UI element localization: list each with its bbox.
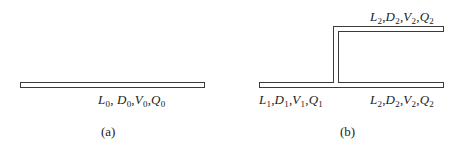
pipe-b-branch-horizontal [333, 26, 444, 32]
caption-a: (a) [101, 125, 115, 138]
var-diameter: D [117, 92, 127, 107]
subscript: 2 [429, 16, 434, 26]
pipe-b-branch-vertical [333, 26, 339, 83]
var-diameter: D [386, 92, 396, 107]
var-diameter: D [275, 92, 285, 107]
pipe-diagram: L0, D0,V0,Q0 (a) L2,D2,V2,Q2 L1,D1,V1,Q1… [0, 0, 462, 150]
pipe-b-left-label: L1,D1,V1,Q1 [259, 93, 323, 109]
caption-b: (b) [340, 125, 355, 138]
separator: , [110, 92, 113, 107]
var-flow: Q [420, 92, 430, 107]
var-flow: Q [309, 92, 319, 107]
subscript: 2 [429, 99, 434, 109]
pipe-a-label: L0, D0,V0,Q0 [98, 93, 165, 109]
subscript: 0 [161, 99, 166, 109]
var-velocity: V [403, 9, 411, 24]
pipe-b-right-label: L2,D2,V2,Q2 [370, 93, 434, 109]
elbow-joint [334, 31, 338, 33]
pipe-b-main [259, 82, 444, 88]
var-flow: Q [420, 9, 430, 24]
pipe-a [20, 82, 205, 88]
pipe-b-branch-label: L2,D2,V2,Q2 [370, 10, 434, 26]
var-velocity: V [403, 92, 411, 107]
var-flow: Q [151, 92, 161, 107]
var-velocity: V [135, 92, 143, 107]
subscript: 1 [318, 99, 323, 109]
var-diameter: D [386, 9, 396, 24]
var-velocity: V [292, 92, 300, 107]
